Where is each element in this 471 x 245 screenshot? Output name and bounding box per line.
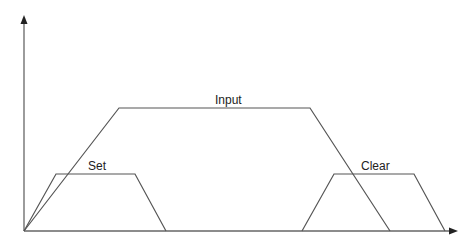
set-label: Set — [88, 159, 107, 173]
input-membership-curve — [24, 108, 390, 231]
clear-label: Clear — [361, 159, 390, 173]
input-label: Input — [215, 93, 242, 107]
clear-membership-curve — [302, 174, 445, 231]
fuzzy-membership-diagram: Input Set Clear — [0, 0, 471, 245]
x-axis-arrow-icon — [449, 228, 458, 235]
y-axis-arrow-icon — [21, 15, 28, 24]
